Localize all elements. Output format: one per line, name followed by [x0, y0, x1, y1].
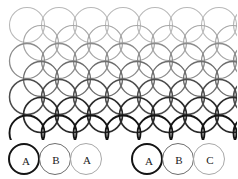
- packing-circle: [74, 116, 109, 141]
- legend-circle-abc-0: A: [131, 143, 163, 175]
- legend-label-abc-1: B: [163, 144, 195, 176]
- legend-circle-aba-1: B: [39, 143, 71, 175]
- packing-circle: [170, 116, 205, 141]
- packing-circle: [10, 116, 45, 141]
- packing-circle: [138, 116, 173, 141]
- legend-label-aba-0: A: [10, 145, 42, 177]
- packing-circle: [42, 116, 77, 141]
- packing-row-1: [24, 26, 238, 61]
- legend-label-aba-2: A: [71, 144, 103, 176]
- packing-circle: [106, 116, 141, 141]
- legend-circle-aba-0: A: [8, 143, 40, 175]
- packing-row-3: [24, 62, 238, 97]
- packing-row-6: [10, 116, 238, 141]
- legend-label-abc-2: C: [194, 144, 226, 176]
- packing-svg: [0, 0, 237, 140]
- legend-label-aba-1: B: [40, 144, 72, 176]
- legend-circle-abc-2: C: [193, 143, 225, 175]
- legend-circle-aba-2: A: [70, 143, 102, 175]
- packing-circle: [202, 116, 237, 141]
- figure-root: A B A A B C: [0, 0, 237, 179]
- legend-circle-abc-1: B: [162, 143, 194, 175]
- legend-label-abc-0: A: [133, 145, 165, 177]
- legend-row: A B A A B C: [0, 140, 237, 179]
- circle-packing-diagram: [0, 0, 237, 140]
